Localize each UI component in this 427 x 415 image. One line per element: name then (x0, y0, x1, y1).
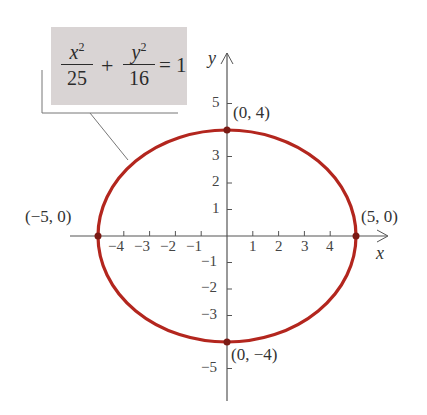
callout-leader (90, 113, 128, 160)
x-tick-label: −4 (108, 238, 124, 255)
y-tick-label: −1 (201, 253, 217, 270)
y-tick-label: −5 (201, 359, 217, 376)
y-tick-label: 1 (212, 200, 220, 217)
x-tick-label: 4 (326, 238, 334, 255)
x-tick-label: 2 (275, 238, 283, 255)
x-axis-label: x (376, 243, 384, 264)
equation-box: x2 25 + y2 16 = 1 (51, 27, 187, 105)
fraction-bar (123, 64, 155, 65)
plus-sign: + (101, 53, 113, 79)
label-point-bottom: (0, −4) (231, 345, 277, 365)
equals-one: = 1 (159, 53, 187, 78)
fraction-y: y2 16 (123, 36, 155, 89)
denominator-16: 16 (123, 67, 155, 89)
y-axis-label: y (208, 48, 216, 69)
exponent: 2 (140, 40, 146, 54)
fraction-x: x2 25 (61, 36, 93, 89)
y-tick-label: −3 (201, 306, 217, 323)
point-top (224, 127, 231, 134)
x-tick-label: 3 (301, 238, 309, 255)
x-tick-label: −2 (160, 238, 176, 255)
label-point-left: (−5, 0) (25, 207, 71, 227)
y-tick-label: 3 (212, 147, 220, 164)
y-tick-label: −2 (201, 279, 217, 296)
y-tick-label: 5 (212, 94, 220, 111)
label-point-right: (5, 0) (361, 207, 398, 227)
label-point-top: (0, 4) (233, 103, 270, 123)
point-right (353, 233, 360, 240)
fraction-bar (61, 64, 93, 65)
y-tick-label: 2 (212, 173, 220, 190)
denominator-25: 25 (61, 67, 93, 89)
x-tick-label: 1 (249, 238, 257, 255)
x-tick-label: −3 (134, 238, 150, 255)
exponent: 2 (78, 40, 84, 54)
x-tick-label: −1 (186, 238, 202, 255)
point-left (95, 233, 102, 240)
point-bottom (224, 339, 231, 346)
